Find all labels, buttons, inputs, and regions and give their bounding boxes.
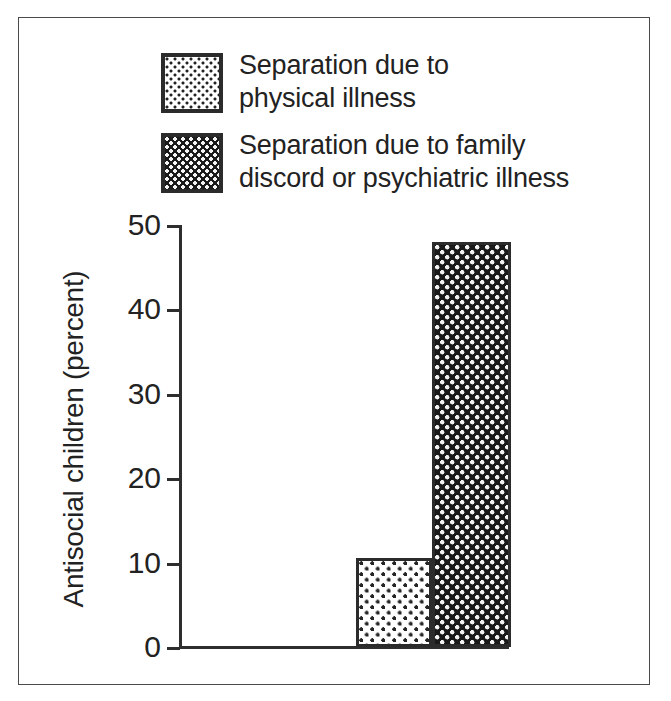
y-axis-ticklabel-0-wrap: 0 <box>89 632 161 662</box>
y-axis-ticklabel: 20 <box>91 463 161 493</box>
figure-frame: Separation due to physical illness Separ… <box>18 17 650 685</box>
y-axis-tick-30 <box>167 394 180 397</box>
bar-physical-illness <box>356 558 432 647</box>
y-axis-tick-20 <box>167 478 180 481</box>
y-axis-line <box>179 225 182 649</box>
y-axis-tick-50 <box>167 225 180 228</box>
y-axis-label: Antisocial children (percent) <box>58 229 90 649</box>
y-axis-ticklabel: 30 <box>91 379 161 409</box>
y-axis-ticklabel: 40 <box>91 294 161 324</box>
y-axis-ticklabel: 50 <box>91 210 161 240</box>
y-axis-ticklabel-30-wrap: 30 <box>89 379 161 409</box>
bar-family-discord <box>432 242 511 647</box>
y-axis-tick-0 <box>167 647 180 650</box>
y-axis-ticklabel-20-wrap: 20 <box>89 463 161 493</box>
y-axis-ticklabel: 10 <box>91 548 161 578</box>
y-axis-tick-40 <box>167 309 180 312</box>
y-axis-ticklabel-50-wrap: 50 <box>89 210 161 240</box>
y-axis-ticklabel: 0 <box>91 632 161 662</box>
plot-area: Antisocial children (percent) 50 40 30 2… <box>19 18 651 686</box>
y-axis-ticklabel-40-wrap: 40 <box>89 294 161 324</box>
y-axis-tick-10 <box>167 563 180 566</box>
y-axis-ticklabel-10-wrap: 10 <box>89 548 161 578</box>
